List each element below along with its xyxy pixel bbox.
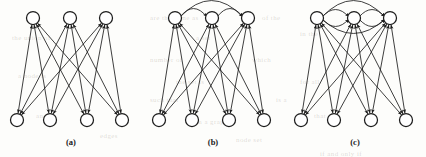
edge-top3-bottom2 <box>53 24 102 114</box>
figure-container: are the same asof thethe union ofa setin… <box>0 0 426 157</box>
edge-top3-bottom2 <box>337 24 386 114</box>
panel-a-bottom-node-4[interactable] <box>116 114 129 127</box>
panel-b: (b) <box>153 0 271 147</box>
panel-b-top-node-3[interactable] <box>242 12 255 25</box>
edge-top1-bottom2 <box>318 25 333 113</box>
edge-top1-bottom4 <box>180 23 260 114</box>
edge-top3-bottom1 <box>164 23 244 114</box>
panel-b-bottom-node-4[interactable] <box>258 114 271 127</box>
edge-top3-bottom4 <box>249 25 263 113</box>
panels-layer: (a)(b)(c) <box>11 0 413 147</box>
panel-c-top-node-1[interactable] <box>311 12 324 25</box>
cross-edges-b <box>160 23 263 114</box>
panel-a-top-node-2[interactable] <box>64 12 77 25</box>
edge-top1-bottom1 <box>160 25 174 113</box>
panel-a-bottom-node-3[interactable] <box>81 114 94 127</box>
edge-top2-bottom3 <box>355 25 370 113</box>
panel-a-top-node-1[interactable] <box>27 12 40 25</box>
edge-top3-bottom1 <box>22 23 102 114</box>
panel-c: (c) <box>295 0 413 147</box>
edge-top3-bottom3 <box>230 25 246 113</box>
panel-a: (a) <box>11 12 129 148</box>
nodes-b <box>153 12 271 127</box>
edge-top2-bottom3 <box>71 25 86 113</box>
panel-c-bottom-node-4[interactable] <box>400 114 413 127</box>
panel-c-bottom-node-2[interactable] <box>328 114 341 127</box>
edge-top3-bottom4 <box>107 25 121 113</box>
cross-edges-a <box>18 23 121 114</box>
edge-top2-bottom2 <box>193 25 210 113</box>
panel-b-top-node-2[interactable] <box>206 12 219 25</box>
edge-top3-bottom1 <box>306 23 386 114</box>
nodes-c <box>295 12 413 127</box>
panel-label-b: (b) <box>208 137 219 147</box>
edge-top1-bottom4 <box>38 23 118 114</box>
edge-top1-bottom4 <box>322 23 402 114</box>
panel-b-bottom-node-1[interactable] <box>153 114 166 127</box>
edge-top1-bottom1 <box>302 25 316 113</box>
panel-c-bottom-node-1[interactable] <box>295 114 308 127</box>
panel-a-bottom-node-2[interactable] <box>44 114 57 127</box>
panel-c-top-node-2[interactable] <box>348 12 361 25</box>
panel-b-bottom-node-3[interactable] <box>223 114 236 127</box>
panel-a-top-node-3[interactable] <box>100 12 113 25</box>
graph-diagram-canvas: (a)(b)(c) <box>0 0 426 157</box>
panel-b-top-node-1[interactable] <box>169 12 182 25</box>
edge-top3-bottom4 <box>391 25 405 113</box>
edge-top2-bottom4 <box>73 24 119 113</box>
panel-c-bottom-node-3[interactable] <box>365 114 378 127</box>
panel-a-bottom-node-1[interactable] <box>11 114 24 127</box>
edge-top2-bottom4 <box>357 24 403 113</box>
edge-top3-bottom2 <box>195 24 244 114</box>
edge-top2-bottom2 <box>335 25 352 113</box>
panel-c-top-node-3[interactable] <box>384 12 397 25</box>
edge-top1-bottom2 <box>176 25 191 113</box>
edge-top1-bottom1 <box>18 25 32 113</box>
panel-b-bottom-node-2[interactable] <box>186 114 199 127</box>
panel-label-a: (a) <box>66 137 76 147</box>
nodes-a <box>11 12 129 127</box>
edge-top2-bottom2 <box>51 25 68 113</box>
edge-top3-bottom3 <box>88 25 104 113</box>
edge-top1-bottom2 <box>34 25 49 113</box>
edge-top3-bottom3 <box>372 25 388 113</box>
cross-edges-c <box>302 23 405 114</box>
panel-label-c: (c) <box>350 137 360 147</box>
edge-top2-bottom4 <box>215 24 261 113</box>
edge-top2-bottom3 <box>213 25 228 113</box>
